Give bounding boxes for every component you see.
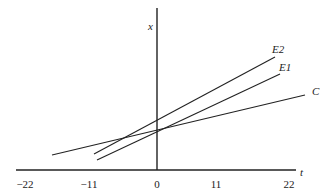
tick-label: 22 bbox=[284, 178, 295, 190]
line-e2 bbox=[94, 57, 275, 154]
t-axis-label: t bbox=[300, 166, 304, 178]
line-c bbox=[52, 95, 305, 155]
tick-label: −22 bbox=[16, 178, 33, 190]
diagram-canvas: x t E2 E1 C −22 −11 0 11 22 bbox=[0, 0, 329, 196]
label-c: C bbox=[312, 85, 320, 97]
tick-label: 0 bbox=[154, 178, 160, 190]
label-e2: E2 bbox=[271, 43, 285, 55]
line-e1 bbox=[97, 74, 280, 160]
tick-label: −11 bbox=[81, 178, 98, 190]
label-e1: E1 bbox=[278, 61, 291, 73]
x-axis-label: x bbox=[147, 20, 153, 32]
tick-label: 11 bbox=[211, 178, 222, 190]
